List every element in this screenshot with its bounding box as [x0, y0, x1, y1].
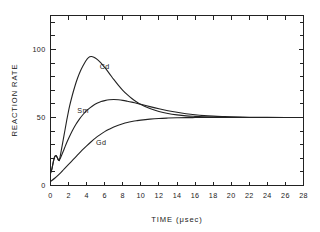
- x-tick-label: 20: [227, 191, 236, 200]
- axis-frame: [51, 16, 304, 186]
- series-labels: CdSmGd: [77, 62, 109, 147]
- series-label-sm: Sm: [77, 106, 89, 115]
- y-tick-label: 50: [37, 113, 46, 122]
- curve-gd: [51, 117, 304, 181]
- x-tick-label: 4: [84, 191, 88, 200]
- x-tick-label: 0: [48, 191, 52, 200]
- x-tick-label: 16: [191, 191, 200, 200]
- x-tick-label: 18: [209, 191, 218, 200]
- x-tick-label: 28: [299, 191, 308, 200]
- x-tick-label: 8: [121, 191, 125, 200]
- y-axis-ticks: [51, 22, 304, 185]
- x-tick-label: 12: [155, 191, 164, 200]
- y-axis-tick-labels: 050100: [32, 45, 45, 190]
- series-label-cd: Cd: [100, 62, 110, 71]
- figure-container: 0246810121416182022242628 050100 CdSmGd …: [0, 0, 320, 232]
- x-axis-ticks: [51, 16, 304, 186]
- x-tick-label: 22: [245, 191, 254, 200]
- series-label-gd: Gd: [96, 138, 106, 147]
- x-axis-title: TIME (μsec): [151, 215, 202, 224]
- y-axis-title: REACTION RATE: [10, 64, 19, 137]
- plot-frame: [51, 16, 304, 186]
- data-curves: [51, 57, 304, 182]
- reaction-rate-chart: 0246810121416182022242628 050100 CdSmGd …: [0, 0, 320, 232]
- x-tick-label: 6: [103, 191, 107, 200]
- y-tick-label: 0: [41, 181, 45, 190]
- x-tick-label: 24: [263, 191, 272, 200]
- x-tick-label: 10: [137, 191, 146, 200]
- y-tick-label: 100: [32, 45, 45, 54]
- x-tick-label: 14: [173, 191, 182, 200]
- x-tick-label: 26: [281, 191, 290, 200]
- x-tick-label: 2: [66, 191, 70, 200]
- x-axis-tick-labels: 0246810121416182022242628: [48, 191, 308, 200]
